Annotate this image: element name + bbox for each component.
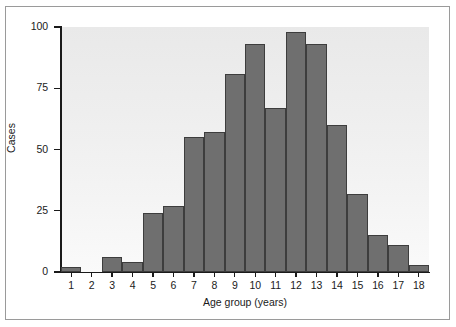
- x-axis-tick: [214, 272, 215, 277]
- bar: [409, 265, 429, 272]
- bar: [388, 245, 408, 272]
- x-axis-tick: [193, 272, 194, 277]
- bar: [204, 132, 224, 272]
- bar: [122, 262, 142, 272]
- bar: [102, 257, 122, 272]
- bar: [245, 44, 265, 272]
- y-axis-tick-label: 75: [8, 81, 48, 93]
- y-axis-tick: [54, 271, 61, 272]
- x-axis-tick: [132, 272, 133, 277]
- bar: [184, 137, 204, 272]
- x-axis-tick: [152, 272, 153, 277]
- y-axis-title: Cases: [5, 123, 17, 153]
- y-axis-tick: [54, 149, 61, 150]
- x-axis-tick: [173, 272, 174, 277]
- x-axis-tick: [357, 272, 358, 277]
- bar: [61, 267, 81, 272]
- x-axis-tick: [71, 272, 72, 277]
- x-axis-tick: [234, 272, 235, 277]
- histogram-figure: 0255075100 123456789101112131415161718 C…: [0, 0, 456, 327]
- x-axis-tick: [316, 272, 317, 277]
- bar: [225, 74, 245, 272]
- x-axis-tick: [275, 272, 276, 277]
- bar: [163, 206, 183, 272]
- bar: [327, 125, 347, 272]
- x-axis-tick: [398, 272, 399, 277]
- y-axis-tick-label: 100: [8, 20, 48, 32]
- bar: [368, 235, 388, 272]
- bar: [306, 44, 326, 272]
- bar: [286, 32, 306, 272]
- x-axis-title: Age group (years): [61, 296, 429, 308]
- bar: [265, 108, 285, 272]
- y-axis-tick: [54, 88, 61, 89]
- y-axis-tick-label: 25: [8, 204, 48, 216]
- x-axis-tick: [91, 272, 92, 277]
- bar: [347, 194, 367, 272]
- x-axis-tick: [295, 272, 296, 277]
- x-axis-tick-label: 18: [407, 279, 431, 291]
- x-axis-tick: [418, 272, 419, 277]
- x-axis-tick: [377, 272, 378, 277]
- x-axis-tick: [111, 272, 112, 277]
- x-axis-tick: [255, 272, 256, 277]
- bar: [143, 213, 163, 272]
- y-axis-tick: [54, 210, 61, 211]
- y-axis-tick-label: 0: [8, 265, 48, 277]
- y-axis-tick: [54, 26, 61, 27]
- x-axis-tick: [336, 272, 337, 277]
